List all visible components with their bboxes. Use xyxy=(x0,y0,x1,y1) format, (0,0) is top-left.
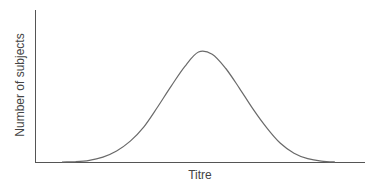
distribution-curve xyxy=(62,51,335,162)
y-axis-label: Number of subjects xyxy=(13,33,27,136)
x-axis-label: Titre xyxy=(188,168,212,182)
chart-canvas xyxy=(0,0,383,186)
